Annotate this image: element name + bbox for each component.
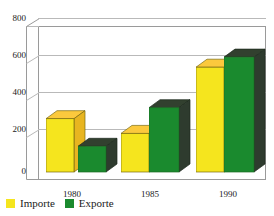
y-tick-400: 400	[0, 88, 26, 97]
legend-item-exporte: Exporte	[65, 198, 114, 209]
x-tick-1985: 1985	[120, 189, 180, 199]
plot-area: 800 600 400 200 0 1980 1985 1990	[0, 8, 274, 178]
legend-label-importe: Importe	[20, 198, 55, 209]
legend-item-importe: Importe	[6, 198, 55, 209]
legend-swatch-exporte-icon	[65, 199, 74, 208]
legend-label-exporte: Exporte	[79, 198, 114, 209]
y-tick-800: 800	[0, 14, 26, 23]
x-tick-1990: 1990	[198, 189, 258, 199]
y-tick-600: 600	[0, 51, 26, 60]
chart-left-face	[26, 16, 39, 180]
y-axis-labels: 800 600 400 200 0	[0, 8, 26, 178]
legend-swatch-importe-icon	[6, 199, 15, 208]
chart-legend: Importe Exporte	[6, 198, 114, 209]
y-tick-200: 200	[0, 125, 26, 134]
bar-1990-exporte	[224, 8, 274, 178]
bar-chart: 800 600 400 200 0 1980 1985 1990 Importe…	[0, 0, 274, 216]
y-tick-0: 0	[0, 167, 26, 176]
